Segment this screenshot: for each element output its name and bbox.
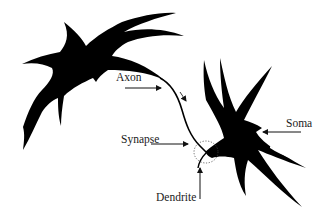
- neuron-diagram: Axon Synapse Dendrite Soma: [0, 0, 334, 219]
- synapse-label: Synapse: [121, 134, 159, 146]
- presynaptic-neuron: [22, 13, 184, 150]
- dendrite-label: Dendrite: [156, 192, 196, 204]
- soma-label: Soma: [286, 118, 312, 130]
- signal-direction-arrow: [180, 92, 186, 101]
- dendrite-fiber: [198, 153, 206, 168]
- axon-label: Axon: [116, 72, 142, 84]
- diagram-canvas: [0, 0, 334, 219]
- axon-fiber: [160, 78, 206, 152]
